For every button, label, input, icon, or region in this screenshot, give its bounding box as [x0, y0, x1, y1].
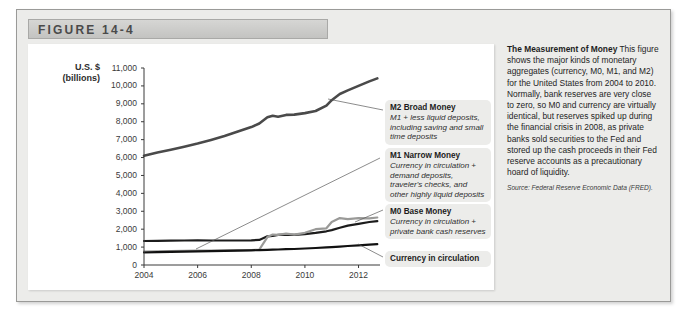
callout-m1: M1 Narrow Money Currency in circulation …	[385, 148, 491, 202]
caption-source: Source: Federal Reserve Economic Data (F…	[507, 184, 659, 192]
leader-line-m2	[328, 99, 383, 110]
series-line-1	[144, 221, 377, 241]
y-tick-label: 6,000	[93, 152, 137, 162]
axes-group	[141, 68, 380, 268]
callout-m2-desc: M1 + less liquid deposits, including sav…	[390, 113, 486, 142]
callout-m0-desc: Currency in circulation + private bank c…	[390, 217, 486, 236]
y-tick-label: 4,000	[93, 188, 137, 198]
callout-m2-title: M2 Broad Money	[390, 103, 486, 113]
callout-m0: M0 Base Money Currency in circulation + …	[385, 204, 491, 239]
x-tick-label: 2006	[178, 270, 218, 280]
plot-series-group	[144, 78, 377, 252]
y-tick-label: 11,000	[93, 63, 137, 73]
x-tick-label: 2004	[124, 270, 164, 280]
callout-m0-title: M0 Base Money	[390, 207, 486, 217]
y-tick-label: 9,000	[93, 98, 137, 108]
caption-text: The Measurement of Money This figure sho…	[507, 44, 659, 178]
x-tick-label: 2010	[285, 270, 325, 280]
y-tick-label: 1,000	[93, 242, 137, 252]
figure-caption: The Measurement of Money This figure sho…	[507, 44, 659, 290]
caption-lead: The Measurement of Money	[507, 44, 617, 54]
callout-m2: M2 Broad Money M1 + less liquid deposits…	[385, 100, 491, 145]
figure-frame: FIGURE 14-4 U.S. $ (billions) 01,0002	[16, 9, 671, 302]
y-tick-label: 3,000	[93, 206, 137, 216]
x-tick-label: 2008	[231, 270, 271, 280]
y-tick-label: 2,000	[93, 224, 137, 234]
series-line-0	[144, 78, 377, 155]
callout-currency: Currency in circulation	[385, 251, 491, 267]
callout-m1-desc: Currency in circulation + demand deposit…	[390, 161, 486, 199]
y-tick-label: 5,000	[93, 170, 137, 180]
y-tick-label: 7,000	[93, 134, 137, 144]
callout-currency-title: Currency in circulation	[390, 254, 486, 264]
leader-line-m0	[355, 210, 383, 222]
leader-line-currency	[358, 244, 383, 257]
x-tick-label: 2012	[339, 270, 379, 280]
figure-number-label: FIGURE 14-4	[38, 23, 135, 37]
callout-m1-title: M1 Narrow Money	[390, 151, 486, 161]
figure-header-bar: FIGURE 14-4	[28, 19, 328, 39]
y-tick-label: 10,000	[93, 80, 137, 90]
chart-panel: U.S. $ (billions) 01,0002,0003,0004,0005…	[28, 44, 494, 290]
caption-body: This figure shows the major kinds of mon…	[507, 44, 659, 177]
y-tick-label: 8,000	[93, 116, 137, 126]
y-tick-label: 0	[93, 260, 137, 270]
